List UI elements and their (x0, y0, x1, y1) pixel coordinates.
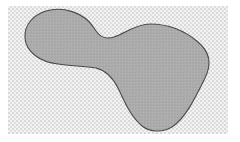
blob-figure (0, 0, 240, 142)
figure-canvas (0, 0, 240, 142)
